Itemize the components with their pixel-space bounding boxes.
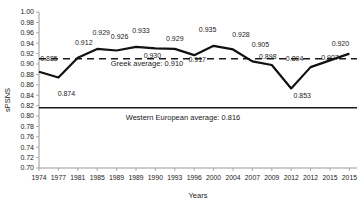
data-point-label: 0.917 (188, 56, 206, 63)
x-tick-label: 1989 (128, 174, 143, 181)
x-tick-label: 1989 (109, 174, 124, 181)
x-tick-label: 2015 (322, 174, 337, 181)
y-tick-label: 0.74 (20, 144, 34, 151)
axes (39, 12, 357, 168)
x-tick-label: 1974 (31, 174, 46, 181)
y-tick-label: 0.80 (20, 112, 34, 119)
axis-lines (39, 12, 357, 168)
data-point-label: 0.912 (75, 39, 93, 46)
data-point-label: 0.907 (321, 54, 339, 61)
western-average-label: Western European average: 0.816 (126, 113, 241, 122)
y-tick-label: 0.88 (20, 71, 34, 78)
x-tick-label: 1996 (187, 174, 202, 181)
x-tick-label: 1985 (90, 174, 105, 181)
line-chart: 1.000.980.960.940.920.900.880.860.840.82… (0, 0, 359, 204)
y-tick-label: 0.98 (20, 19, 34, 26)
y-tick-label: 0.94 (20, 40, 34, 47)
y-tick-label: 0.92 (20, 50, 34, 57)
data-point-label: 0.933 (132, 27, 150, 34)
x-axis-ticks: 1974197719811985198919891990199319962000… (31, 168, 357, 181)
data-point-label: 0.929 (92, 29, 110, 36)
data-point-label: 0.874 (58, 90, 76, 97)
data-point-label: 0.885 (40, 55, 58, 62)
y-tick-label: 1.00 (20, 8, 34, 15)
x-tick-label: 2007 (245, 174, 260, 181)
y-tick-label: 0.96 (20, 29, 34, 36)
data-point-label: 0.853 (293, 92, 311, 99)
x-tick-label: 2015 (342, 174, 357, 181)
y-tick-label: 0.76 (20, 133, 34, 140)
x-tick-label: 2009 (264, 174, 279, 181)
y-axis-ticks: 1.000.980.960.940.920.900.880.860.840.82… (20, 8, 39, 171)
y-axis-title: sPSNS (3, 88, 12, 112)
data-point-label: 0.930 (144, 52, 162, 59)
y-tick-label: 0.82 (20, 102, 34, 109)
data-point-label: 0.894 (286, 55, 304, 62)
x-tick-label: 1977 (51, 174, 66, 181)
y-tick-label: 0.72 (20, 154, 34, 161)
y-tick-label: 0.90 (20, 60, 34, 67)
data-point-label: 0.920 (332, 40, 350, 47)
data-point-label: 0.898 (259, 53, 277, 60)
x-tick-label: 2004 (225, 174, 240, 181)
data-line (39, 46, 349, 89)
x-tick-label: 1981 (70, 174, 85, 181)
y-tick-label: 0.86 (20, 81, 34, 88)
x-tick-label: 1993 (167, 174, 182, 181)
y-tick-label: 0.78 (20, 123, 34, 130)
chart-canvas: 1.000.980.960.940.920.900.880.860.840.82… (0, 0, 359, 204)
data-point-label: 0.929 (166, 35, 184, 42)
x-axis-title: Years (189, 191, 208, 200)
data-labels: 0.8850.8740.9120.9290.9260.9330.9300.929… (40, 26, 349, 99)
data-point-label: 0.928 (232, 31, 250, 38)
data-point-label: 0.905 (252, 41, 270, 48)
greek-average-label: Greek average: 0.910 (111, 59, 184, 68)
x-tick-label: 2012 (303, 174, 318, 181)
y-tick-label: 0.84 (20, 92, 34, 99)
y-tick-label: 0.70 (20, 164, 34, 171)
x-tick-label: 2000 (206, 174, 221, 181)
data-point-label: 0.926 (111, 33, 129, 40)
data-point-label: 0.935 (199, 26, 217, 33)
x-tick-label: 2012 (284, 174, 299, 181)
x-tick-label: 1990 (148, 174, 163, 181)
